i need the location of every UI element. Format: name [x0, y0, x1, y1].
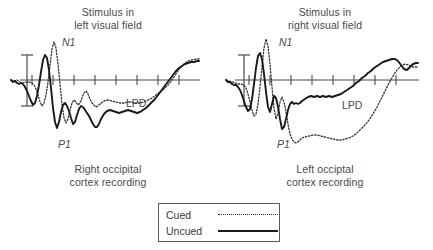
waveform-cued-right [226, 39, 417, 143]
legend: Cued Uncued [158, 203, 280, 242]
panel-left-visual-field: Stimulus in left visual field [0, 0, 216, 200]
panel-right-title: Stimulus in right visual field [217, 6, 433, 32]
panel-left-title: Stimulus in left visual field [0, 6, 216, 32]
erp-figure: Stimulus in left visual field [0, 0, 433, 250]
legend-item-uncued: Uncued [166, 223, 278, 239]
panel-left-caption-line1: Right occipital [75, 163, 142, 175]
panel-left-title-line2: left visual field [74, 19, 142, 31]
waveform-uncued-left [11, 55, 199, 128]
panel-right-visual-field: Stimulus in right visual field [217, 0, 433, 200]
panel-left-caption-line2: cortex recording [70, 176, 147, 188]
panel-right-waveform-plot [217, 34, 433, 164]
waveform-uncued-right [226, 53, 418, 129]
legend-item-cued: Cued [166, 207, 278, 223]
annotation-lpd-left: LPD [126, 97, 146, 109]
annotation-lpd-right: LPD [342, 99, 362, 111]
legend-swatch-dotted-line [218, 214, 278, 218]
panel-right-caption-line2: cortex recording [287, 176, 364, 188]
annotation-p1-left: P1 [58, 138, 71, 150]
panel-right-title-line2: right visual field [288, 19, 362, 31]
legend-label-cued: Cued [166, 207, 191, 223]
annotation-n1-right: N1 [279, 36, 292, 48]
panel-left-caption: Right occipital cortex recording [0, 163, 216, 189]
panel-right-caption-line1: Left occiptal [296, 163, 353, 175]
annotation-p1-right: P1 [277, 138, 290, 150]
panel-right-caption: Left occiptal cortex recording [217, 163, 433, 189]
panel-left-title-line1: Stimulus in [82, 6, 134, 18]
annotation-n1-left: N1 [62, 36, 75, 48]
panel-left-waveform-plot [0, 34, 216, 164]
legend-label-uncued: Uncued [166, 223, 202, 239]
legend-swatch-solid-line [218, 230, 278, 235]
panel-right-title-line1: Stimulus in [299, 6, 351, 18]
